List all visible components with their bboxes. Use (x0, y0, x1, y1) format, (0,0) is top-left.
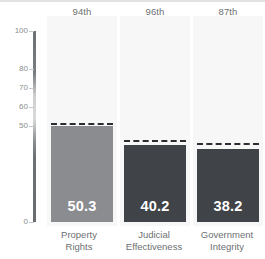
reference-marker-government-integrity (197, 143, 259, 145)
y-tick-mark-60 (29, 107, 34, 108)
y-tick-label-0: 0 (2, 218, 28, 226)
bar-judicial-effectiveness: 40.2 (124, 145, 186, 222)
bar-government-integrity: 38.2 (197, 149, 259, 222)
bar-value-property-rights: 50.3 (51, 198, 113, 214)
reference-marker-property-rights (51, 123, 113, 125)
reference-marker-judicial-effectiveness (124, 140, 186, 142)
y-tick-label-70: 70 (2, 84, 28, 92)
bar-value-government-integrity: 38.2 (197, 198, 259, 214)
percentile-label-government-integrity: 87th (193, 6, 263, 19)
y-tick-label-60: 60 (2, 103, 28, 111)
y-tick-mark-100 (29, 31, 34, 32)
category-label-line-2: Rights (41, 241, 117, 253)
percentile-label-judicial-effectiveness: 96th (120, 6, 190, 19)
y-tick-mark-80 (29, 69, 34, 70)
category-label-line-1: Government (187, 229, 265, 241)
category-label-property-rights: Property Rights (41, 229, 117, 252)
category-label-line-1: Judicial (114, 229, 194, 241)
y-tick-label-80: 80 (2, 65, 28, 73)
category-label-line-1: Property (41, 229, 117, 241)
y-tick-label-100: 100 (2, 27, 28, 35)
y-tick-mark-70 (29, 88, 34, 89)
y-tick-mark-0 (29, 222, 34, 223)
bar-chart: 94th 96th 87th 100 80 70 60 50 0 50.3 40… (0, 0, 265, 259)
percentile-label-property-rights: 94th (47, 6, 117, 19)
top-divider (0, 0, 265, 2)
category-label-government-integrity: Government Integrity (187, 229, 265, 252)
y-tick-label-50: 50 (2, 122, 28, 130)
category-label-judicial-effectiveness: Judicial Effectiveness (114, 229, 194, 252)
category-label-line-2: Integrity (187, 241, 265, 253)
bar-property-rights: 50.3 (51, 126, 113, 222)
y-tick-mark-50 (29, 126, 34, 127)
bar-value-judicial-effectiveness: 40.2 (124, 198, 186, 214)
category-label-line-2: Effectiveness (114, 241, 194, 253)
